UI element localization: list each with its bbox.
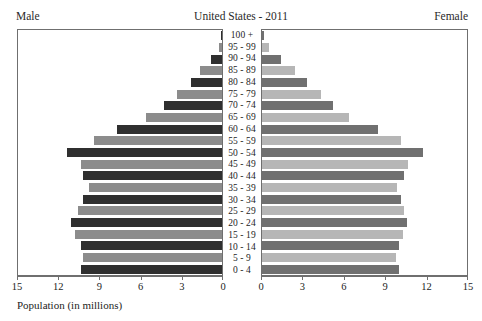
age-group-label: 35 - 39 [223, 182, 261, 194]
male-bar [83, 171, 222, 180]
female-bar-row [262, 170, 467, 182]
female-axis-line [261, 276, 468, 277]
female-bar [262, 66, 295, 75]
female-bar [262, 171, 404, 180]
male-bar-row [18, 158, 222, 170]
male-bar-row [18, 30, 222, 42]
male-bar [83, 253, 222, 262]
female-bar [262, 31, 264, 40]
male-bar [164, 101, 222, 110]
age-group-label: 50 - 54 [223, 147, 261, 159]
age-group-label: 40 - 44 [223, 170, 261, 182]
female-bar-row [262, 158, 467, 170]
female-bar [262, 125, 378, 134]
axis-tick [427, 276, 428, 280]
female-bar [262, 160, 408, 169]
axis-tick-label: 12 [421, 281, 432, 293]
female-bar [262, 55, 281, 64]
female-bar-row [262, 112, 467, 124]
axis-tick [141, 276, 142, 280]
male-bar [71, 218, 222, 227]
male-bar-rows [18, 30, 222, 275]
male-bar-row [18, 240, 222, 252]
female-bar [262, 206, 404, 215]
age-group-label: 0 - 4 [223, 264, 261, 276]
age-group-label: 95 - 99 [223, 41, 261, 53]
male-bar-row [18, 100, 222, 112]
female-bar-row [262, 42, 467, 54]
axis-tick-label: 15 [12, 281, 23, 293]
axis-tick [222, 276, 223, 280]
axis-tick-label: 15 [463, 281, 474, 293]
female-bar-row [262, 135, 467, 147]
axis-tick [302, 276, 303, 280]
male-bar-row [18, 147, 222, 159]
female-bar [262, 43, 269, 52]
age-group-label: 45 - 49 [223, 158, 261, 170]
male-bar-row [18, 53, 222, 65]
female-bar-row [262, 217, 467, 229]
female-bar-row [262, 77, 467, 89]
male-bar [177, 90, 222, 99]
axis-tick [99, 276, 100, 280]
age-group-label: 15 - 19 [223, 229, 261, 241]
male-bar [81, 160, 222, 169]
male-bar [219, 43, 222, 52]
male-x-axis: 15129630 [17, 276, 223, 296]
male-bar [83, 195, 222, 204]
chart-title: United States - 2011 [0, 10, 482, 23]
female-bar [262, 183, 397, 192]
age-group-label: 55 - 59 [223, 135, 261, 147]
female-legend-label: Female [434, 10, 468, 23]
male-bar-row [18, 193, 222, 205]
age-group-label: 90 - 94 [223, 53, 261, 65]
male-bar-row [18, 112, 222, 124]
axis-tick-label: 0 [220, 281, 225, 293]
axis-tick-label: 0 [258, 281, 263, 293]
male-bar [191, 78, 222, 87]
male-bar-row [18, 77, 222, 89]
axis-tick [17, 276, 18, 280]
male-bar-row [18, 170, 222, 182]
male-bar [89, 183, 222, 192]
female-bar [262, 136, 401, 145]
female-bar-row [262, 123, 467, 135]
female-bar [262, 253, 396, 262]
male-bar [78, 206, 222, 215]
age-group-label: 75 - 79 [223, 88, 261, 100]
male-bar [81, 265, 222, 274]
male-bar-row [18, 228, 222, 240]
female-bar [262, 195, 401, 204]
age-group-label: 30 - 34 [223, 194, 261, 206]
population-pyramid-chart: Male United States - 2011 Female 100 +95… [0, 0, 482, 321]
age-group-label: 60 - 64 [223, 123, 261, 135]
x-axis-title: Population (in millions) [17, 299, 122, 312]
female-bar [262, 78, 307, 87]
female-bar [262, 265, 399, 274]
age-group-label: 65 - 69 [223, 111, 261, 123]
female-bar-row [262, 263, 467, 275]
axis-tick [467, 276, 468, 280]
female-bar-row [262, 240, 467, 252]
male-bar-row [18, 217, 222, 229]
age-group-label: 100 + [223, 29, 261, 41]
axis-tick-label: 12 [53, 281, 64, 293]
male-bar-row [18, 135, 222, 147]
female-bar [262, 101, 333, 110]
female-bar-row [262, 252, 467, 264]
male-bar-row [18, 42, 222, 54]
female-bar-row [262, 88, 467, 100]
female-plot-panel [261, 29, 468, 276]
age-group-labels: 100 +95 - 9990 - 9485 - 8980 - 8475 - 79… [223, 29, 261, 276]
male-axis-line [17, 276, 223, 277]
axis-tick-label: 9 [383, 281, 388, 293]
male-bar [94, 136, 222, 145]
male-bar-row [18, 182, 222, 194]
axis-tick [385, 276, 386, 280]
male-bar-row [18, 252, 222, 264]
age-group-label: 80 - 84 [223, 76, 261, 88]
age-group-label: 20 - 24 [223, 217, 261, 229]
age-group-label: 5 - 9 [223, 253, 261, 265]
male-bar [221, 31, 222, 40]
female-bar [262, 241, 399, 250]
